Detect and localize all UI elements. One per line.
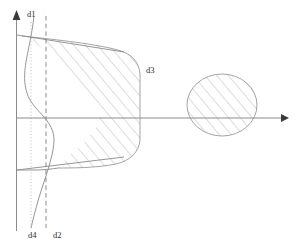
label-d2: d2 [53, 231, 62, 240]
figure-root: d1 d3 d4 d2 [0, 0, 299, 246]
label-d1: d1 [27, 10, 36, 19]
label-d3: d3 [146, 66, 155, 75]
figure-canvas [0, 0, 299, 246]
vertical-axis-arrowhead-icon [13, 10, 21, 20]
horizontal-axis-arrowhead-icon [281, 114, 289, 122]
label-d4: d4 [28, 231, 37, 240]
